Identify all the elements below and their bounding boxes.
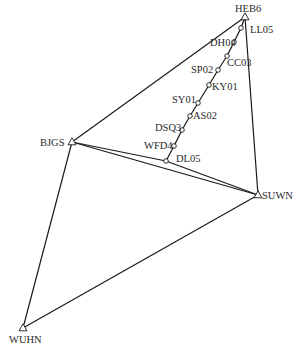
station-label-suwn: SUWN [262, 190, 293, 201]
edge-wuhn-suwn [23, 195, 258, 328]
point-label-wfd4: WFD4 [144, 140, 173, 151]
control-station-triangle-icon [68, 138, 76, 145]
point-label-ll05: LL05 [250, 24, 273, 35]
edge-heb6-suwn [245, 17, 258, 195]
survey-point-circle-icon [196, 101, 201, 106]
edge-bjgs-wuhn [23, 142, 72, 328]
point-label-ky01: KY01 [212, 81, 238, 92]
point-labels: LL05DH04CC03SP02KY01SY01AS02DSQ3WFD4DL05… [9, 3, 293, 345]
edge-ky01-sy01 [198, 85, 209, 103]
station-label-wuhn: WUHN [9, 334, 42, 345]
point-label-dl05: DL05 [176, 153, 201, 164]
point-label-as02: AS02 [193, 110, 217, 121]
survey-point-circle-icon [164, 159, 169, 164]
point-label-dsq3: DSQ3 [155, 122, 181, 133]
point-label-sp02: SP02 [191, 64, 213, 75]
station-label-bjgs: BJGS [40, 137, 65, 148]
survey-point-circle-icon [188, 114, 193, 119]
point-label-cc03: CC03 [227, 57, 252, 68]
point-label-dh04: DH04 [210, 37, 236, 48]
point-label-sy01: SY01 [172, 94, 196, 105]
edge-dl05-suwn [166, 161, 258, 195]
survey-point-circle-icon [239, 26, 244, 31]
network-edges [23, 17, 258, 328]
control-stations [19, 13, 262, 331]
control-network-diagram: LL05DH04CC03SP02KY01SY01AS02DSQ3WFD4DL05… [0, 0, 305, 354]
survey-point-circle-icon [207, 83, 212, 88]
survey-point-circle-icon [216, 68, 221, 73]
control-station-triangle-icon [19, 324, 27, 331]
station-label-heb6: HEB6 [235, 3, 261, 14]
